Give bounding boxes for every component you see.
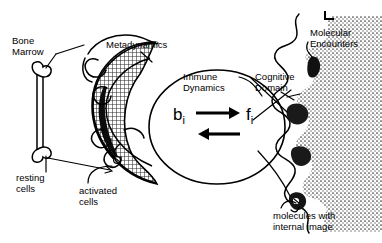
- math-f-subscript: i: [251, 114, 253, 126]
- label-immune-dynamics: Immune Dynamics: [183, 72, 225, 93]
- label-molecules-internal-image: molecules with internal image: [273, 211, 335, 232]
- label-cognitive-domain: Cognitive Domain: [255, 72, 295, 93]
- arrow-b-to-f: [196, 107, 240, 119]
- label-bone-marrow: Bone Marrow: [12, 36, 44, 57]
- bone-marrow-icon: [32, 62, 51, 162]
- label-resting-cells: resting cells: [16, 173, 45, 194]
- math-symbol-f-i: fi: [246, 105, 253, 126]
- label-activated-cells: activated cells: [79, 186, 117, 207]
- arrow-f-to-b: [198, 128, 240, 140]
- label-metadynamics: Metadynamics: [106, 40, 167, 51]
- label-molecular-encounters: Molecular Encounters: [310, 28, 358, 49]
- math-b-subscript: i: [182, 114, 184, 126]
- math-symbol-b-i: bi: [173, 105, 185, 126]
